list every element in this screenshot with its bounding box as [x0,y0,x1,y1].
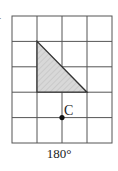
corner-mark: · [0,14,2,23]
point-c-label: C [64,103,73,119]
rotation-caption: 180° [0,146,118,162]
